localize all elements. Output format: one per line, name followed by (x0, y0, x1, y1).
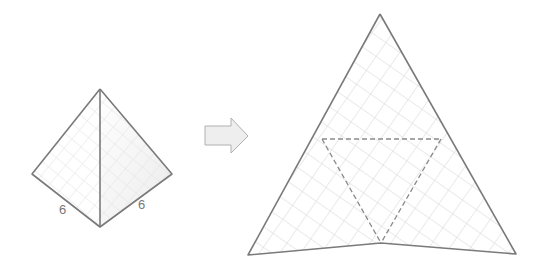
net-fill (248, 14, 516, 255)
edge-label-left: 6 (59, 202, 66, 217)
arrow-right-icon (205, 118, 248, 153)
tetrahedron-net (248, 14, 516, 255)
diagram-canvas (0, 0, 543, 267)
tetra-right-face-grid (100, 89, 172, 227)
tetrahedron (32, 89, 172, 227)
edge-label-right: 6 (138, 197, 145, 212)
